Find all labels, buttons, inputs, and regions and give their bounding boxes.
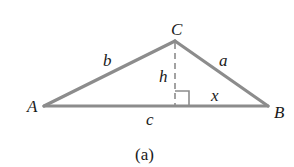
figure-caption: (a) [135, 145, 154, 164]
vertex-label-a: A [26, 97, 38, 116]
triangle-diagram: C A B b a c h x (a) [0, 0, 294, 167]
side-label-b: b [103, 51, 112, 70]
side-label-c: c [146, 110, 154, 129]
altitude-label-h: h [159, 67, 168, 86]
segment-label-x: x [210, 86, 219, 105]
vertex-label-c: C [171, 20, 183, 39]
right-angle-marker [175, 91, 189, 105]
side-label-a: a [219, 51, 228, 70]
vertex-label-b: B [274, 103, 285, 122]
